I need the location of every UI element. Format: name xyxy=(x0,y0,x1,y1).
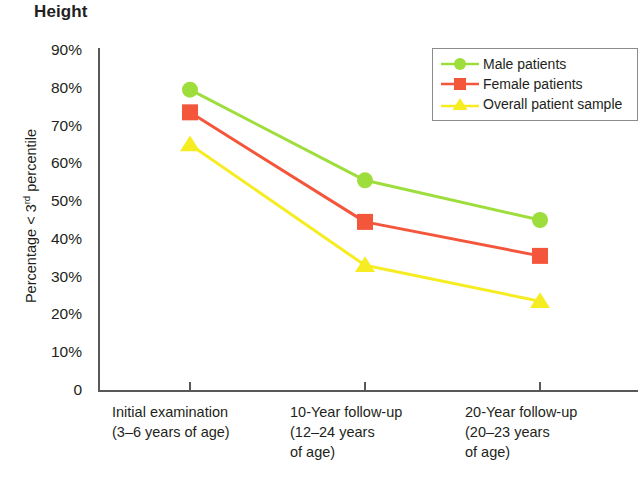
circle-marker-icon xyxy=(440,55,480,73)
data-point-square xyxy=(532,248,548,264)
data-point-triangle xyxy=(530,292,550,308)
data-point-circle xyxy=(357,172,373,188)
y-axis-tick-label: 70% xyxy=(51,117,82,135)
x-axis-tick-label-line: (12–24 years xyxy=(290,422,478,442)
y-axis-tick-label: 90% xyxy=(51,41,82,59)
data-point-triangle xyxy=(355,256,375,272)
x-axis-tick-label: 10-Year follow-up(12–24 yearsof age) xyxy=(290,402,478,462)
triangle-marker-icon xyxy=(440,95,480,113)
x-axis-tick-label-line: (3–6 years of age) xyxy=(112,422,300,442)
y-axis-tick-label: 10% xyxy=(51,343,82,361)
legend-item-male[interactable]: Male patients xyxy=(433,54,637,74)
x-axis-tick xyxy=(539,382,541,392)
series-line-square xyxy=(190,112,540,256)
x-axis-tick xyxy=(364,382,366,392)
data-point-triangle xyxy=(180,135,200,151)
legend-item-overall[interactable]: Overall patient sample xyxy=(433,94,637,114)
y-axis-tick-label: 30% xyxy=(51,268,82,286)
y-axis-tick-label: 80% xyxy=(51,79,82,97)
legend-label-male: Male patients xyxy=(480,56,566,72)
x-axis-tick-label-line: of age) xyxy=(290,442,478,462)
chart-legend: Male patients Female patients Overall pa… xyxy=(432,48,638,121)
x-axis-tick-label-line: of age) xyxy=(465,442,638,462)
x-axis-tick-label: 20-Year follow-up(20–23 yearsof age) xyxy=(465,402,638,462)
series-line-triangle xyxy=(190,144,540,301)
data-point-square xyxy=(182,104,198,120)
chart-container: Height Percentage < 3rd percentile 90%80… xyxy=(0,0,638,484)
square-marker-icon xyxy=(440,75,480,93)
x-axis-tick xyxy=(189,382,191,392)
y-axis-tick-label: 60% xyxy=(51,154,82,172)
legend-item-female[interactable]: Female patients xyxy=(433,74,637,94)
y-axis-tick-labels: 90%80%70%60%50%40%30%20%10%0 xyxy=(0,0,92,484)
y-axis-tick-label: 20% xyxy=(51,305,82,323)
legend-label-overall: Overall patient sample xyxy=(480,96,622,112)
x-axis-tick-label-line: Initial examination xyxy=(112,402,300,422)
y-axis-tick-label: 50% xyxy=(51,192,82,210)
data-point-circle xyxy=(182,82,198,98)
y-axis-tick-label: 0 xyxy=(73,381,82,399)
x-axis-tick-label-line: (20–23 years xyxy=(465,422,638,442)
y-axis-tick-label: 40% xyxy=(51,230,82,248)
x-axis-tick-label: Initial examination(3–6 years of age) xyxy=(112,402,300,442)
data-point-square xyxy=(357,214,373,230)
y-axis-line xyxy=(98,48,100,392)
x-axis-line xyxy=(98,390,638,392)
data-point-circle xyxy=(532,212,548,228)
x-axis-tick-label-line: 10-Year follow-up xyxy=(290,402,478,422)
x-axis-tick-label-line: 20-Year follow-up xyxy=(465,402,638,422)
legend-label-female: Female patients xyxy=(480,76,583,92)
